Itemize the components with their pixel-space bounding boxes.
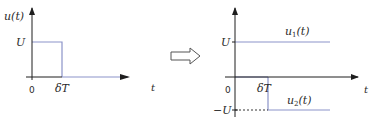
- u2-label: u2(t): [287, 94, 312, 108]
- left-pulse-end-label: δT: [55, 82, 71, 95]
- left-graph: u(t) U 0 δT: [4, 8, 128, 95]
- right-origin-label: 0: [225, 85, 231, 95]
- left-x-axis-label: t: [151, 82, 156, 93]
- left-level-label: U: [16, 36, 26, 49]
- right-neg-level-label: −U: [213, 104, 232, 117]
- right-step-time-label: δT: [257, 82, 273, 95]
- pulse-decomposition-diagram: u(t) U 0 δT t U −U 0 δT t u1(t) u2(: [0, 0, 370, 121]
- hollow-right-arrow-icon: [171, 48, 200, 64]
- left-origin-label: 0: [29, 85, 35, 95]
- left-y-axis-label: u(t): [4, 10, 24, 23]
- left-x-axis-arrow: t: [120, 74, 156, 93]
- right-x-axis-label: t: [364, 84, 369, 95]
- u1-label: u1(t): [285, 25, 310, 39]
- right-pos-level-label: U: [221, 36, 231, 49]
- left-pulse-signal: [32, 42, 62, 77]
- right-graph: U −U 0 δT t u1(t) u2(t): [213, 8, 369, 117]
